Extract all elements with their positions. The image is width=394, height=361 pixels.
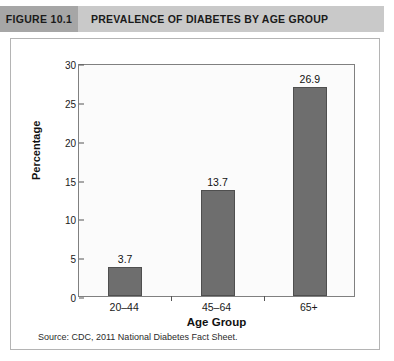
- y-axis-tick: 20: [65, 137, 79, 148]
- x-axis-title: Age Group: [78, 316, 355, 328]
- y-axis-tick-label: 20: [65, 137, 79, 148]
- y-axis-tick-mark: [79, 142, 84, 143]
- y-axis-tick-mark: [79, 259, 84, 260]
- x-axis-tick-label: 20–44: [110, 301, 139, 313]
- x-axis-tick-label: 45–64: [202, 301, 231, 313]
- plot-area: 302520151050 3.713.726.9: [78, 64, 355, 297]
- y-axis-tick-label: 15: [65, 176, 79, 187]
- bar-value-label: 3.7: [118, 253, 133, 265]
- y-axis-tick-mark: [79, 220, 84, 221]
- y-axis-tick-mark: [79, 181, 84, 182]
- bar-value-label: 13.7: [207, 176, 227, 188]
- y-axis-tick: 30: [65, 60, 79, 71]
- x-axis-tick-label: 65+: [300, 301, 318, 313]
- y-axis-tick-label: 0: [70, 293, 79, 304]
- y-axis-tick: 15: [65, 176, 79, 187]
- y-axis-tick-label: 10: [65, 215, 79, 226]
- y-axis-tick-mark: [79, 65, 84, 66]
- x-axis-minor-tick: [264, 296, 265, 301]
- x-axis-minor-tick: [171, 296, 172, 301]
- y-axis-title: Percentage: [30, 121, 42, 180]
- y-axis-tick-mark: [79, 298, 84, 299]
- y-axis-tick-label: 5: [70, 254, 79, 265]
- bar: 13.7: [201, 190, 235, 296]
- bar: 3.7: [108, 267, 142, 296]
- y-axis-tick: 5: [70, 254, 79, 265]
- y-axis-tick-label: 25: [65, 98, 79, 109]
- y-axis-tick: 25: [65, 98, 79, 109]
- y-axis-tick-mark: [79, 103, 84, 104]
- y-axis-tick: 10: [65, 215, 79, 226]
- bar-value-label: 26.9: [300, 73, 320, 85]
- bar: 26.9: [293, 87, 327, 296]
- bar-chart: Percentage 302520151050 3.713.726.9 20–4…: [0, 0, 394, 361]
- y-axis-tick: 0: [70, 293, 79, 304]
- y-axis-tick-label: 30: [65, 60, 79, 71]
- source-note: Source: CDC, 2011 National Diabetes Fact…: [38, 332, 237, 342]
